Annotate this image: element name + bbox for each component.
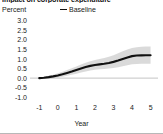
x-tick-label: 5 (149, 104, 153, 112)
y-tick-label: -1.0 (15, 94, 27, 101)
x-axis-tick-labels: -1012345 (30, 104, 158, 114)
y-tick-label: 2.5 (17, 27, 27, 34)
x-tick-label: 4 (130, 104, 134, 112)
plot-area (30, 16, 158, 102)
legend-line-marker-baseline (60, 9, 67, 10)
chart-legend: Baseline (60, 6, 96, 13)
y-axis-label: Percent (2, 6, 26, 13)
legend-label-baseline: Baseline (69, 6, 96, 13)
x-tick-label: -1 (36, 104, 42, 112)
x-axis-label: Year (0, 120, 163, 127)
chart-figure: Impact on corporate expenditure Percent … (0, 0, 163, 134)
y-tick-label: 1.0 (17, 56, 27, 63)
y-axis-tick-labels: 3.02.52.01.51.00.50.0-0.5-1.0 (0, 16, 27, 102)
confidence-band (39, 47, 150, 79)
y-tick-label: 0.5 (17, 65, 27, 72)
chart-title: Impact on corporate expenditure (2, 0, 162, 3)
x-tick-label: 2 (93, 104, 97, 112)
y-tick-label: 0.0 (17, 75, 27, 82)
x-tick-label: 3 (112, 104, 116, 112)
x-tick-label: 0 (56, 104, 60, 112)
chart-svg (30, 16, 158, 102)
x-tick-label: 1 (74, 104, 78, 112)
y-tick-label: -0.5 (15, 84, 27, 91)
y-tick-label: 2.0 (17, 36, 27, 43)
y-tick-label: 3.0 (17, 17, 27, 24)
y-tick-label: 1.5 (17, 46, 27, 53)
